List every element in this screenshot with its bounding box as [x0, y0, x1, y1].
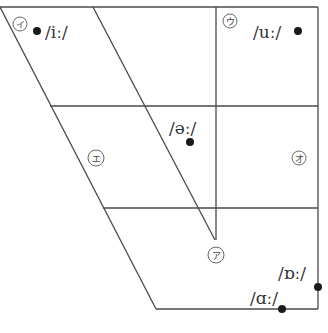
marker-e: エ [88, 150, 104, 166]
kana-u: ウ [226, 17, 235, 27]
kana-e: エ [92, 154, 101, 164]
dot-i [33, 27, 41, 35]
marker-o: オ [292, 151, 306, 165]
dot-er [186, 138, 194, 146]
ipa-a: /ɑː/ [250, 288, 278, 308]
kana-o: オ [295, 154, 304, 164]
left-diagonal [0, 7, 156, 309]
dot-oo [314, 283, 322, 291]
inner-diagonal [93, 7, 215, 240]
dot-a [278, 305, 286, 313]
marker-oo: /ɒː/ [278, 263, 322, 291]
marker-a: ア /ɑː/ [208, 247, 286, 313]
kana-a: ア [212, 251, 221, 261]
ipa-i: /iː/ [45, 22, 68, 42]
ipa-u: /uː/ [253, 22, 281, 42]
vowel-chart: イ /iː/ ウ /uː/ エ /əː/ オ ア /ɑː/ /ɒː/ [0, 0, 328, 333]
ipa-oo: /ɒː/ [278, 263, 306, 283]
kana-i: イ [16, 20, 25, 30]
marker-er: /əː/ [169, 118, 197, 146]
ipa-er: /əː/ [169, 118, 197, 138]
marker-i: イ /iː/ [13, 17, 68, 42]
dot-u [294, 27, 302, 35]
marker-u: ウ /uː/ [223, 14, 302, 42]
